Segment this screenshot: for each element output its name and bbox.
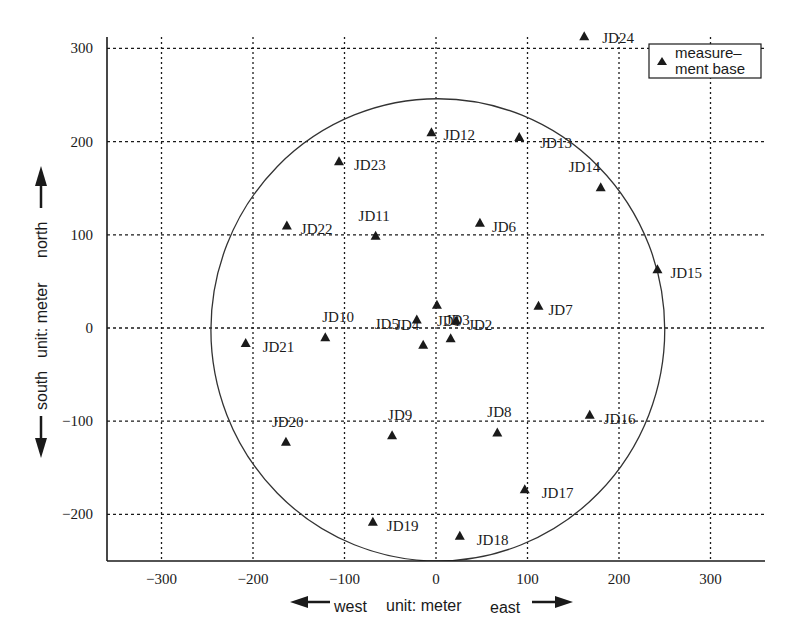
y-tick-labels: −200−1000100200300 <box>62 40 93 522</box>
point-label: JD16 <box>604 411 636 427</box>
data-point: JD21 <box>241 338 295 355</box>
point-label: JD18 <box>477 532 509 548</box>
y-tick-label: 300 <box>71 40 94 56</box>
x-tick-label: 100 <box>516 571 539 587</box>
triangle-marker-icon <box>281 437 291 446</box>
point-label: JD23 <box>354 157 386 173</box>
triangle-marker-icon <box>455 531 465 540</box>
data-point: JD3 <box>446 312 470 342</box>
legend-label-line1: measure– <box>675 44 742 61</box>
x-tick-label: −300 <box>146 571 177 587</box>
data-point: JD9 <box>387 407 412 439</box>
triangle-marker-icon <box>368 517 378 526</box>
x-tick-label: 200 <box>608 571 631 587</box>
triangle-marker-icon <box>533 301 543 310</box>
data-point: JD14 <box>569 159 606 191</box>
y-label-unit: unit: meter <box>33 282 50 358</box>
point-label: JD21 <box>263 339 295 355</box>
grid-lines <box>107 37 765 561</box>
x-tick-labels: −300−200−1000100200300 <box>146 571 722 587</box>
data-point: JD10 <box>320 309 354 341</box>
triangle-marker-icon <box>282 220 292 229</box>
triangle-marker-icon <box>418 340 428 349</box>
triangle-marker-icon <box>520 484 530 493</box>
x-label-west: west <box>333 598 367 615</box>
data-point: JD18 <box>455 531 509 548</box>
point-label: JD6 <box>492 219 517 235</box>
triangle-marker-icon <box>426 127 436 136</box>
triangle-marker-icon <box>596 182 606 191</box>
data-point: JD8 <box>487 404 511 436</box>
arrow-down-icon <box>35 416 47 458</box>
point-label: JD9 <box>388 407 412 423</box>
x-axis-label: west unit: meter east <box>290 596 573 616</box>
data-point: JD4 <box>395 317 428 349</box>
x-tick-label: −100 <box>329 571 360 587</box>
point-label: JD13 <box>540 135 572 151</box>
triangle-marker-icon <box>475 218 485 227</box>
triangle-marker-icon <box>320 332 330 341</box>
data-point: JD16 <box>585 410 636 427</box>
arrow-up-icon <box>35 166 47 208</box>
point-label: JD10 <box>322 309 354 325</box>
data-point: JD7 <box>533 301 573 318</box>
data-point: JD12 <box>426 127 475 143</box>
point-label: JD15 <box>670 265 702 281</box>
point-label: JD8 <box>487 404 511 420</box>
triangle-marker-icon <box>241 338 251 347</box>
triangle-marker-icon <box>432 300 442 309</box>
data-points: JD1JD2JD3JD4JD5JD6JD7JD8JD9JD10JD11JD12J… <box>241 30 702 548</box>
point-label: JD22 <box>301 221 333 237</box>
legend-label-line2: ment base <box>675 60 745 77</box>
y-axis-label: south unit: meter north <box>33 166 50 458</box>
x-label-east: east <box>490 599 521 616</box>
triangle-marker-icon <box>514 132 524 141</box>
point-label: JD12 <box>443 127 475 143</box>
point-label: JD11 <box>359 208 390 224</box>
x-label-unit: unit: meter <box>386 597 462 614</box>
data-point: JD23 <box>334 156 386 173</box>
data-point: JD24 <box>579 30 634 46</box>
triangle-marker-icon <box>492 427 502 436</box>
triangle-marker-icon <box>387 430 397 439</box>
point-label: JD19 <box>387 518 419 534</box>
triangle-marker-icon <box>585 410 595 419</box>
point-label: JD7 <box>548 302 573 318</box>
x-tick-label: 0 <box>432 571 440 587</box>
data-point: JD19 <box>368 517 419 534</box>
point-label: JD24 <box>602 30 634 46</box>
point-label: JD2 <box>468 317 492 333</box>
triangle-marker-icon <box>334 156 344 165</box>
triangle-marker-icon <box>652 264 662 273</box>
triangle-marker-icon <box>446 333 456 342</box>
x-tick-label: 300 <box>699 571 722 587</box>
point-label: JD3 <box>446 312 470 328</box>
x-tick-label: −200 <box>238 571 269 587</box>
point-label: JD20 <box>272 414 304 430</box>
arrow-right-icon <box>532 596 573 608</box>
triangle-marker-icon <box>579 31 589 40</box>
data-point: JD6 <box>475 218 517 235</box>
y-label-north: north <box>33 222 50 258</box>
point-label: JD14 <box>569 159 601 175</box>
y-tick-label: 100 <box>71 227 94 243</box>
y-tick-label: −200 <box>62 506 93 522</box>
y-tick-label: −100 <box>62 413 93 429</box>
y-tick-label: 0 <box>86 320 94 336</box>
arrow-left-icon <box>290 596 330 608</box>
y-tick-label: 200 <box>71 134 94 150</box>
scatter-chart: −300−200−1000100200300 −200−100010020030… <box>0 0 800 644</box>
legend: measure– ment base <box>649 44 761 78</box>
y-label-south: south <box>33 371 50 410</box>
data-point: JD20 <box>272 414 304 446</box>
point-label: JD5 <box>375 316 399 332</box>
data-point: JD15 <box>652 264 702 281</box>
point-label: JD17 <box>542 485 574 501</box>
chart-canvas: −300−200−1000100200300 −200−100010020030… <box>0 0 800 644</box>
